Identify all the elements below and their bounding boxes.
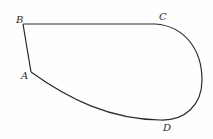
point-label-b: B: [16, 15, 23, 25]
point-label-c: C: [159, 12, 167, 22]
point-label-a: A: [21, 71, 28, 81]
curve-cd: [155, 24, 202, 120]
segment-ab: [23, 24, 31, 72]
curve-da: [31, 72, 160, 120]
point-label-d: D: [163, 123, 171, 133]
figure-canvas: [0, 0, 213, 139]
